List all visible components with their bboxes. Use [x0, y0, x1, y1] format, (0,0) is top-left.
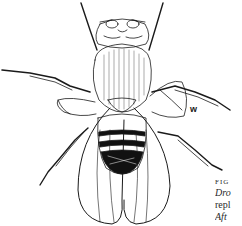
caption-attribution: Aft — [215, 211, 242, 223]
abdomen-stripe-1 — [99, 130, 145, 136]
abdomen — [98, 114, 147, 174]
wing-annotation-label: w — [190, 104, 197, 114]
leg-left-middle — [57, 98, 96, 115]
antennae — [81, 3, 163, 50]
thorax — [93, 44, 151, 112]
caption-text: repl — [215, 199, 242, 211]
leg-left-hind — [40, 128, 88, 185]
leg-left-front — [2, 70, 90, 92]
figure-caption: FIG Dro repl Aft — [215, 177, 242, 223]
caption-figure-number: FIG — [215, 177, 242, 187]
fly-drawing — [0, 0, 242, 226]
caption-species-name: Dro — [215, 187, 242, 199]
abdomen-stripe-2 — [99, 140, 145, 147]
abdomen-tip-dark — [101, 150, 143, 174]
fly-illustration-figure: w FIG Dro repl Aft — [0, 0, 242, 226]
wing-right-folded — [150, 81, 187, 117]
